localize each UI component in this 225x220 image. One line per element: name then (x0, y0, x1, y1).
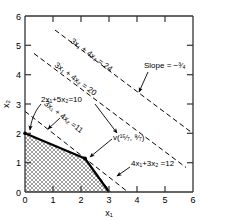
corner-marker (23, 132, 27, 136)
y-tick-1: 1 (16, 158, 21, 168)
y-tick-2: 2 (16, 129, 21, 139)
x-tick-2: 2 (78, 195, 83, 205)
label-2x1-5x2-10: 2x₁+5x₂=10 (41, 95, 82, 104)
label-4x1-3x2-12: 4x₁+3x₂ =12 (131, 159, 175, 168)
linear-programming-plot: 0 1 2 3 4 5 6 0 1 2 3 4 5 6 x₁ x₂ 3x₁ + … (0, 0, 225, 220)
figure-container: 0 1 2 3 4 5 6 0 1 2 3 4 5 6 x₁ x₂ 3x₁ + … (0, 0, 225, 220)
y-axis-label: x₂ (1, 100, 11, 109)
label-vertex: v(¹⁵⁄₇, ⁸⁄₇) (113, 133, 145, 142)
x-tick-3: 3 (106, 195, 111, 205)
x-tick-6: 6 (190, 195, 195, 205)
y-tick-5: 5 (16, 41, 21, 51)
y-tick-6: 6 (16, 12, 21, 22)
y-tick-3: 3 (16, 100, 21, 110)
vertex-marker (83, 157, 87, 161)
y-tick-4: 4 (16, 70, 21, 80)
x-tick-1: 1 (50, 195, 55, 205)
x-tick-5: 5 (162, 195, 167, 205)
label-slope: Slope = −³⁄₄ (144, 61, 186, 70)
x-tick-0: 0 (22, 195, 27, 205)
x-axis-label: x₁ (105, 208, 113, 218)
y-tick-0: 0 (16, 188, 21, 198)
x-tick-4: 4 (134, 195, 139, 205)
